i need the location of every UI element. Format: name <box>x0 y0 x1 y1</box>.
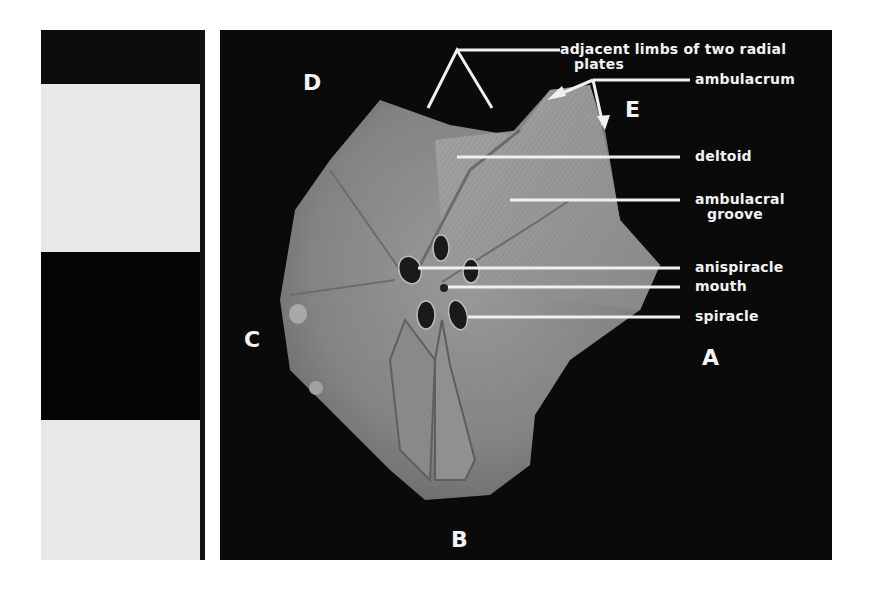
specimen-photo: adjacent limbs of two radial plates ambu… <box>220 30 832 560</box>
label-spiracle: spiracle <box>695 309 759 324</box>
scale-block-2 <box>41 84 200 252</box>
scale-block-1 <box>41 30 200 84</box>
label-ambulacrum: ambulacrum <box>695 72 795 87</box>
mouth-hole <box>440 284 448 292</box>
label-mouth: mouth <box>695 279 747 294</box>
spiracle-right <box>463 259 479 283</box>
label-ambulacral-groove: ambulacral groove <box>695 192 785 222</box>
spiracle-lower-left <box>417 301 435 329</box>
direction-E: E <box>625 97 640 122</box>
spiracle-top <box>433 235 449 261</box>
scale-block-4 <box>41 420 200 560</box>
label-adjacent-limbs: adjacent limbs of two radial plates <box>560 42 786 72</box>
label-anispiracle: anispiracle <box>695 260 784 275</box>
label-deltoid: deltoid <box>695 149 752 164</box>
adjacent-limbs-leader <box>428 50 492 108</box>
direction-B: B <box>451 527 468 552</box>
specimen-illustration <box>220 30 832 560</box>
scale-bar <box>41 30 205 560</box>
direction-D: D <box>303 70 321 95</box>
direction-C: C <box>244 327 260 352</box>
scale-edge <box>200 30 205 560</box>
direction-A: A <box>702 345 719 370</box>
scale-block-3 <box>41 252 200 420</box>
